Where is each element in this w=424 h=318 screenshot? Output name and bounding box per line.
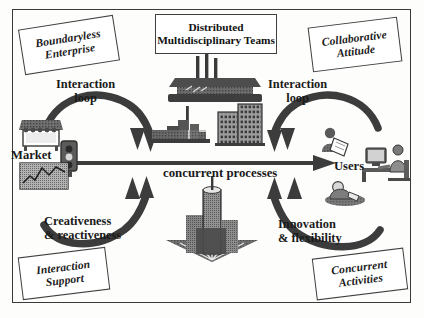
person-at-computer-icon: [362, 145, 410, 182]
label-line-2: loop: [56, 92, 115, 106]
skyscraper-cluster-icon: [166, 176, 258, 262]
factory-complex-icon: [168, 54, 262, 102]
label-line-2: & flexibility: [278, 232, 342, 246]
market-stall-icon: [19, 120, 63, 151]
tag-line-1: Distributed: [188, 21, 243, 34]
label-creativeness-reactiveness: Creativeness & reactiveness: [44, 215, 121, 243]
tag-line-2: Multidisciplinary Teams: [157, 34, 275, 47]
label-line-1: Creativeness: [44, 215, 121, 229]
tag-box-distributed-multidisciplinary-teams: Distributed Multidisciplinary Teams: [155, 14, 277, 54]
label-interaction-loop-left: Interaction loop: [56, 78, 115, 106]
label-users: Users: [334, 159, 364, 173]
label-concurrent-processes: concurrent processes: [163, 166, 277, 180]
person-reading-icon: [322, 128, 348, 156]
arrowhead-pair-right-up: [287, 177, 302, 199]
office-building-icon: [215, 104, 265, 146]
arrowhead-pair-right-down: [280, 128, 295, 150]
stock-chart-icon: [20, 163, 68, 189]
label-line-2: loop: [268, 92, 327, 106]
arrowhead-pair-left-up: [125, 177, 140, 199]
label-line-1: Innovation: [278, 218, 342, 232]
label-line-1: Interaction: [268, 78, 327, 92]
label-innovation-flexibility: Innovation & flexibility: [278, 218, 342, 246]
seated-person-icon: [325, 182, 365, 206]
arrowhead-pair-left-down: [130, 128, 145, 150]
label-line-1: Interaction: [56, 78, 115, 92]
industrial-plant-icon: [150, 106, 210, 143]
label-market: Market: [11, 148, 52, 162]
label-interaction-loop-right: Interaction loop: [268, 78, 327, 106]
label-line-2: & reactiveness: [44, 229, 121, 243]
diagram-canvas: Boundaryless Enterprise Collaborative At…: [0, 0, 424, 318]
